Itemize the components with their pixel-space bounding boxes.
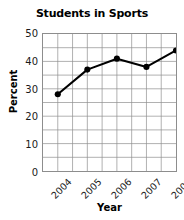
y-tick-label: 10	[14, 139, 38, 150]
grid-lines	[43, 34, 176, 171]
data-point	[143, 64, 149, 70]
plot-area	[42, 33, 177, 172]
x-axis-label: Year	[42, 202, 177, 213]
data-point	[55, 91, 61, 97]
y-tick-label: 0	[14, 167, 38, 178]
plot-svg	[43, 34, 176, 171]
data-markers	[55, 47, 176, 97]
data-point	[114, 56, 120, 62]
line-chart: Students in Sports 50 40 30 20 10 0 Perc…	[0, 0, 184, 220]
y-tick-label: 50	[14, 28, 38, 39]
data-point	[84, 67, 90, 73]
y-axis-label: Percent	[8, 62, 19, 122]
